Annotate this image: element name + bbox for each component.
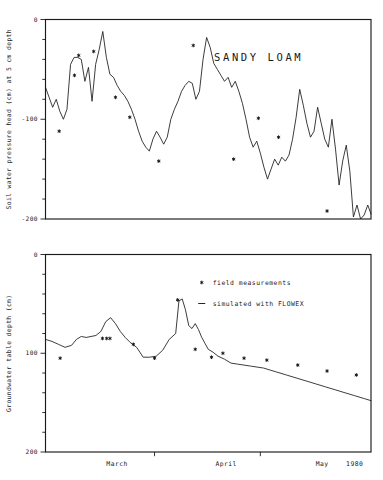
plot-frame bbox=[46, 20, 372, 220]
y-tick-label: -100 bbox=[21, 115, 38, 122]
field-measurement-marker bbox=[265, 358, 268, 362]
y-axis-title: Soil water pressure head (cm) at 5 cm de… bbox=[5, 29, 13, 210]
field-measurement-marker bbox=[192, 44, 195, 48]
y-tick-label: 200 bbox=[26, 448, 38, 455]
two-panel-timeseries-figure: 0-100-200Soil water pressure head (cm) a… bbox=[0, 0, 383, 480]
field-measurement-marker bbox=[325, 369, 328, 373]
field-measurement-marker bbox=[114, 95, 117, 99]
y-axis-title: Groundwater table depth (cm) bbox=[5, 294, 13, 412]
x-category-label: 1980 bbox=[346, 460, 363, 468]
panel-soil-water-pressure-head: 0-100-200Soil water pressure head (cm) a… bbox=[5, 16, 371, 223]
y-tick-label: 100 bbox=[26, 349, 38, 356]
field-measurement-marker bbox=[325, 209, 328, 213]
field-measurement-marker bbox=[105, 337, 108, 341]
legend-label: field measurements bbox=[213, 279, 291, 287]
simulated-series-line bbox=[46, 31, 372, 219]
field-measurement-marker bbox=[232, 157, 235, 161]
field-measurement-series bbox=[58, 44, 329, 213]
y-tick-label: -200 bbox=[21, 215, 38, 222]
legend-label: simulated with FLOWEX bbox=[213, 300, 304, 308]
legend: field measurementssimulated with FLOWEX bbox=[198, 279, 304, 308]
field-measurement-marker bbox=[128, 115, 131, 119]
simulated-series-line bbox=[46, 299, 372, 401]
field-measurement-marker bbox=[257, 116, 260, 120]
panel-groundwater-table-depth: 0100200Groundwater table depth (cm)March… bbox=[5, 251, 371, 468]
field-measurement-marker bbox=[59, 356, 62, 360]
field-measurement-marker bbox=[157, 159, 160, 163]
field-measurement-marker bbox=[221, 351, 224, 355]
field-measurement-marker bbox=[92, 50, 95, 54]
field-measurement-marker bbox=[296, 363, 299, 367]
field-measurement-marker bbox=[108, 337, 111, 341]
field-measurement-marker bbox=[101, 337, 104, 341]
y-tick-label: 0 bbox=[34, 16, 38, 23]
field-measurement-marker bbox=[200, 281, 203, 285]
x-category-label: May bbox=[316, 460, 329, 468]
field-measurement-marker bbox=[242, 356, 245, 360]
field-measurement-marker bbox=[355, 373, 358, 377]
y-tick-label: 0 bbox=[34, 251, 38, 258]
field-measurement-marker bbox=[194, 347, 197, 351]
field-measurement-marker bbox=[277, 135, 280, 139]
x-category-label: April bbox=[215, 460, 237, 468]
field-measurement-marker bbox=[77, 54, 80, 58]
field-measurement-marker bbox=[58, 129, 61, 133]
field-measurement-marker bbox=[73, 74, 76, 78]
field-measurement-marker bbox=[210, 355, 213, 359]
x-category-label: March bbox=[106, 460, 128, 468]
plot-frame bbox=[46, 255, 372, 453]
panel-title: SANDY LOAM bbox=[214, 51, 303, 63]
figure-container: 0-100-200Soil water pressure head (cm) a… bbox=[0, 0, 383, 480]
field-measurement-series bbox=[59, 298, 358, 377]
